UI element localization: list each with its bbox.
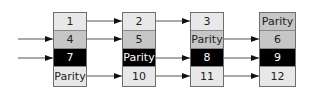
disk-column-2: 2 5 Parity 10 [122,12,156,87]
parity-cell: Parity [123,49,155,67]
block-cell: 9 [260,49,295,67]
block-cell: 6 [260,31,295,49]
block-cell: 1 [54,13,86,31]
parity-striping-diagram: 1 4 7 Parity 2 5 Parity 10 3 Parity 8 11… [0,0,318,97]
block-cell: 4 [54,31,86,49]
parity-cell: Parity [54,67,86,86]
block-cell: 8 [191,49,223,67]
block-cell: 2 [123,13,155,31]
disk-column-1: 1 4 7 Parity [53,12,87,87]
block-cell: 12 [260,67,295,86]
parity-cell: Parity [260,13,295,31]
parity-cell: Parity [191,31,223,49]
block-cell: 10 [123,67,155,86]
block-cell: 11 [191,67,223,86]
block-cell: 7 [54,49,86,67]
block-cell: 5 [123,31,155,49]
disk-column-3: 3 Parity 8 11 [190,12,224,87]
disk-column-4: Parity 6 9 12 [259,12,296,87]
block-cell: 3 [191,13,223,31]
